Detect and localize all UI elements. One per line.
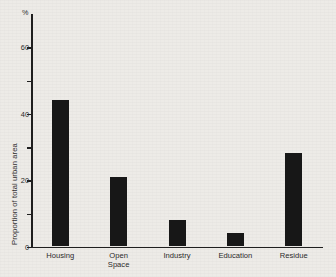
- bar-chart-figure: % Proportion of total urban area 0204060…: [0, 0, 336, 277]
- x-axis-label-4: Residue: [280, 251, 308, 260]
- bar-industry: [169, 220, 186, 247]
- bar-education: [227, 233, 244, 246]
- y-tick-label-40: 40: [21, 109, 29, 118]
- y-tick-label-60: 60: [21, 43, 29, 52]
- x-axis-line: [31, 247, 323, 249]
- x-axis-label-3: Education: [219, 251, 253, 260]
- x-axis-label-0: Housing: [46, 251, 74, 260]
- y-tick-50: [27, 81, 33, 82]
- y-tick-label-0: 0: [25, 243, 29, 252]
- bar-open-space: [110, 177, 127, 247]
- y-tick-label-20: 20: [21, 176, 29, 185]
- y-axis-unit-label: %: [22, 8, 28, 17]
- y-tick-30: [27, 147, 33, 148]
- bar-housing: [52, 100, 69, 246]
- x-axis-label-2: Industry: [163, 251, 190, 260]
- y-tick-10: [27, 214, 33, 215]
- bar-residue: [285, 153, 302, 246]
- x-axis-label-1: Open Space: [108, 251, 130, 270]
- plot-area: 0204060: [31, 14, 323, 248]
- y-axis-title: Proportion of total urban area: [10, 75, 24, 245]
